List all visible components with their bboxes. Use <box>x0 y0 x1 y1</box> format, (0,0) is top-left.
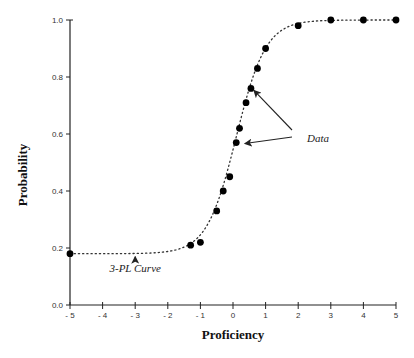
data-point <box>254 65 261 72</box>
x-tick-label: 3 <box>329 311 334 320</box>
x-tick-label: - 2 <box>163 311 173 320</box>
y-tick-label: 0.0 <box>52 301 64 310</box>
data-point <box>187 242 194 249</box>
data-point <box>67 250 74 257</box>
x-tick-label: 5 <box>394 311 399 320</box>
data-point <box>262 45 269 52</box>
3pl-curve-line <box>70 20 396 254</box>
y-tick-label: 0.8 <box>52 73 64 82</box>
arrow-to-data-upper <box>254 90 292 130</box>
y-tick-label: 0.6 <box>52 130 64 139</box>
x-tick-label: 1 <box>263 311 268 320</box>
data-point <box>327 17 334 24</box>
x-tick-label: 2 <box>296 311 301 320</box>
axes: 0.00.20.40.60.81.0- 5- 4- 3- 2- 1012345 <box>52 16 399 320</box>
y-tick-label: 1.0 <box>52 16 64 25</box>
x-tick-label: - 3 <box>131 311 141 320</box>
curve-path <box>70 20 396 254</box>
data-point <box>393 17 400 24</box>
data-points <box>67 17 400 258</box>
chart-plot: 0.00.20.40.60.81.0- 5- 4- 3- 2- 1012345 … <box>0 0 414 358</box>
y-tick-label: 0.2 <box>52 244 64 253</box>
data-point <box>236 125 243 132</box>
x-tick-label: 0 <box>231 311 236 320</box>
data-point <box>248 85 255 92</box>
data-point <box>243 99 250 106</box>
x-tick-label: 4 <box>361 311 366 320</box>
annotation-data-label: Data <box>306 132 330 144</box>
x-tick-label: - 4 <box>98 311 108 320</box>
data-point <box>213 208 220 215</box>
y-axis-title: Probability <box>15 143 30 206</box>
arrow-to-data-lower <box>245 137 292 144</box>
data-point <box>360 17 367 24</box>
annotations: Data3-PL Curve <box>108 90 329 274</box>
data-point <box>197 239 204 246</box>
data-point <box>233 139 240 146</box>
x-tick-label: - 5 <box>65 311 75 320</box>
data-point <box>226 173 233 180</box>
x-tick-label: - 1 <box>196 311 206 320</box>
y-tick-label: 0.4 <box>52 187 64 196</box>
x-axis-title: Proficiency <box>202 327 265 342</box>
annotation-curve-label: 3-PL Curve <box>108 262 161 274</box>
data-point <box>220 188 227 195</box>
data-point <box>295 22 302 29</box>
